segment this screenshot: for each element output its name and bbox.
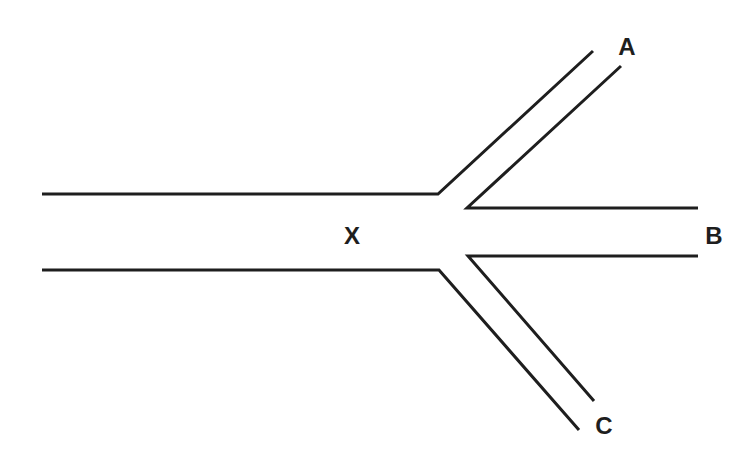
main-channel-top-wall bbox=[42, 51, 593, 194]
label-c: C bbox=[595, 412, 612, 439]
branch-b-c-inner-wall bbox=[468, 256, 698, 401]
label-b: B bbox=[705, 222, 722, 249]
main-channel-bottom-wall bbox=[42, 270, 579, 430]
label-a: A bbox=[618, 33, 635, 60]
label-x: X bbox=[344, 222, 360, 249]
branching-channel-diagram: X A B C bbox=[0, 0, 755, 451]
